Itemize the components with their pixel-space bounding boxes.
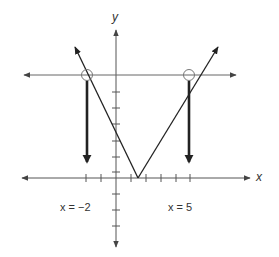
- y-axis-label: y: [112, 10, 118, 24]
- graph-canvas: [0, 0, 279, 257]
- graph-left-branch: [75, 47, 138, 178]
- graph-right-branch: [138, 47, 218, 178]
- annotation-right: x = 5: [168, 201, 192, 213]
- x-axis-label: x: [256, 170, 262, 184]
- annotation-left: x = −2: [60, 201, 91, 213]
